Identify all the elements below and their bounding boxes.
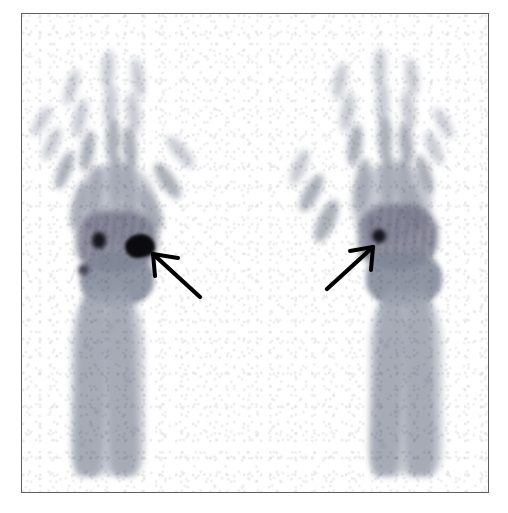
scintigraphy-figure <box>0 0 508 513</box>
arrow-right <box>22 14 488 492</box>
image-frame-border <box>21 13 489 493</box>
arrow-right-barb-lower <box>371 247 373 270</box>
arrow-right-shaft <box>327 247 373 289</box>
scan-canvas <box>22 14 488 492</box>
